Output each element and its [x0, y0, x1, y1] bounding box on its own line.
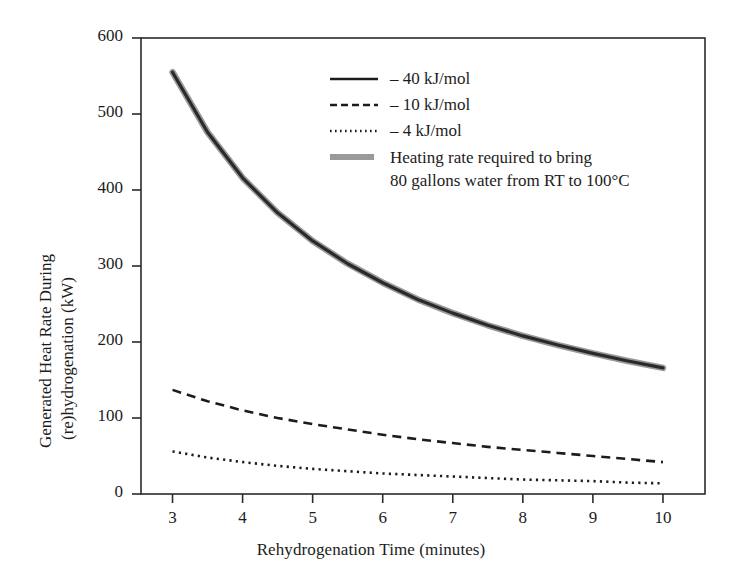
x-tick-label: 10	[643, 508, 683, 528]
x-axis-ticks	[173, 494, 663, 503]
dashed-line-swatch	[328, 94, 380, 116]
x-tick-label: 7	[433, 508, 473, 528]
x-tick-label: 4	[223, 508, 263, 528]
legend-label-heating-rate-line2: 80 gallons water from RT to 100°C	[390, 169, 630, 192]
legend-label-4kjmol: – 4 kJ/mol	[390, 120, 462, 142]
y-tick-label: 0	[77, 482, 123, 502]
y-axis-ticks	[132, 38, 141, 494]
legend-entry-10kjmol: – 10 kJ/mol	[328, 94, 684, 118]
chart-legend: – 40 kJ/mol – 10 kJ/mol – 4 kJ/mol Heati…	[328, 68, 684, 194]
y-tick-label: 600	[77, 26, 123, 46]
legend-entry-4kjmol: – 4 kJ/mol	[328, 120, 684, 144]
legend-entry-heating-rate: Heating rate required to bring 80 gallon…	[328, 146, 684, 192]
legend-label-10kjmol: – 10 kJ/mol	[390, 94, 470, 116]
y-tick-label: 500	[77, 102, 123, 122]
chart-figure: 0100200300400500600 345678910 Generated …	[0, 0, 742, 583]
x-tick-label: 8	[503, 508, 543, 528]
thick-gray-line-swatch	[328, 146, 380, 168]
x-tick-label: 3	[153, 508, 193, 528]
legend-label-heating-rate-line1: Heating rate required to bring	[390, 146, 630, 169]
x-axis-title: Rehydrogenation Time (minutes)	[0, 540, 742, 560]
legend-label-heating-rate: Heating rate required to bring 80 gallon…	[390, 146, 630, 192]
dotted-line-swatch	[328, 120, 380, 142]
y-axis-title-line-1: Generated Heat Rate During	[36, 254, 56, 448]
y-tick-label: 400	[77, 178, 123, 198]
y-tick-label: 100	[77, 406, 123, 426]
y-axis-title-line-2: (re)hydrogenation (kW)	[58, 277, 78, 440]
x-tick-label: 5	[293, 508, 333, 528]
solid-line-swatch	[328, 68, 380, 90]
x-tick-label: 6	[363, 508, 403, 528]
legend-entry-40kjmol: – 40 kJ/mol	[328, 68, 684, 92]
legend-label-40kjmol: – 40 kJ/mol	[390, 68, 470, 90]
x-tick-label: 9	[573, 508, 613, 528]
y-tick-label: 200	[77, 330, 123, 350]
series-line-1	[173, 390, 663, 462]
y-tick-label: 300	[77, 254, 123, 274]
